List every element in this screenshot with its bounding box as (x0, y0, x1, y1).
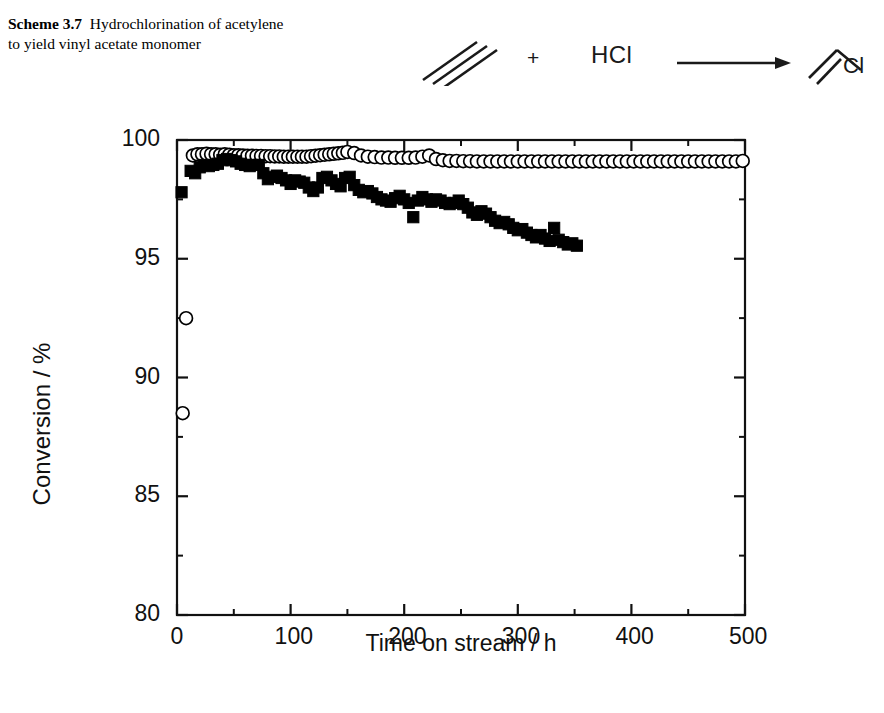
x-tick-label: 200 (388, 623, 420, 650)
data-point (408, 212, 419, 223)
x-tick-label: 100 (275, 623, 307, 650)
series-open-circles (176, 145, 749, 419)
data-point (176, 187, 187, 198)
plot-frame (177, 140, 745, 615)
x-tick-label: 500 (729, 623, 761, 650)
series-filled-squares (176, 153, 583, 251)
conversion-scatter-plot: Conversion / % Time on stream / h 010020… (0, 110, 884, 713)
y-tick-label: 95 (110, 244, 160, 271)
scheme-number: Scheme 3.7 (8, 15, 82, 32)
data-point (549, 222, 560, 233)
reaction-scheme: + HCl Cl (415, 18, 880, 104)
x-axis-label: Time on stream / h (177, 630, 745, 657)
y-axis-label: Conversion / % (28, 294, 56, 554)
x-tick-label: 0 (161, 623, 193, 650)
y-tick-label: 100 (110, 125, 160, 152)
hcl-label: HCl (591, 41, 632, 69)
figure-caption: Scheme 3.7 Hydrochlorination of acetylen… (8, 14, 298, 54)
data-point (736, 155, 749, 168)
reaction-arrow-icon (675, 48, 795, 78)
data-point (571, 240, 582, 251)
y-tick-label: 85 (110, 481, 160, 508)
chlorine-label: Cl (843, 53, 865, 79)
y-tick-label: 80 (110, 600, 160, 627)
x-tick-label: 400 (615, 623, 647, 650)
x-tick-label: 300 (502, 623, 534, 650)
data-point (176, 407, 189, 420)
y-tick-label: 90 (110, 363, 160, 390)
plus-sign: + (527, 46, 539, 70)
acetylene-icon (415, 36, 520, 86)
data-point (180, 312, 193, 325)
